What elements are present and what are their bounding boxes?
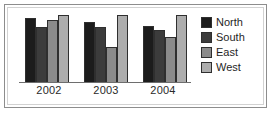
legend-item-north[interactable]: North [201, 15, 245, 29]
bar-2002-west[interactable] [58, 15, 69, 82]
legend-swatch-east [201, 47, 212, 58]
bar-2003-south[interactable] [95, 27, 106, 82]
legend-item-south[interactable]: South [201, 30, 245, 44]
bar-2003-east[interactable] [106, 47, 117, 83]
bar-2004-west[interactable] [176, 15, 187, 82]
legend-item-east[interactable]: East [201, 45, 245, 59]
bar-2004-south[interactable] [154, 30, 165, 82]
x-axis-line [19, 82, 191, 83]
legend-label-south: South [216, 32, 245, 43]
bar-2002-north[interactable] [25, 18, 36, 82]
legend-swatch-west [201, 62, 212, 73]
bars-layer [19, 11, 191, 82]
x-tick-label-0: 2002 [23, 84, 75, 96]
legend-label-north: North [216, 17, 243, 28]
bar-2003-west[interactable] [117, 15, 128, 82]
bar-2004-east[interactable] [165, 37, 176, 82]
legend-swatch-south [201, 32, 212, 43]
chart-legend: North South East West [201, 15, 245, 74]
x-tick-label-2: 2004 [137, 84, 189, 96]
plot-area: 2002 2003 2004 [19, 11, 191, 89]
bar-2002-east[interactable] [47, 20, 58, 82]
legend-label-west: West [216, 62, 241, 73]
bar-2002-south[interactable] [36, 27, 47, 82]
bar-group-2003 [84, 11, 128, 82]
chart-frame: 2002 2003 2004 North South East West [4, 4, 267, 108]
x-axis-labels: 2002 2003 2004 [19, 84, 191, 96]
legend-swatch-north [201, 17, 212, 28]
bar-group-2004 [143, 11, 187, 82]
bar-2003-north[interactable] [84, 22, 95, 82]
bar-group-2002 [25, 11, 69, 82]
legend-label-east: East [216, 47, 238, 58]
x-tick-label-1: 2003 [80, 84, 132, 96]
legend-item-west[interactable]: West [201, 60, 245, 74]
bar-2004-north[interactable] [143, 26, 154, 82]
